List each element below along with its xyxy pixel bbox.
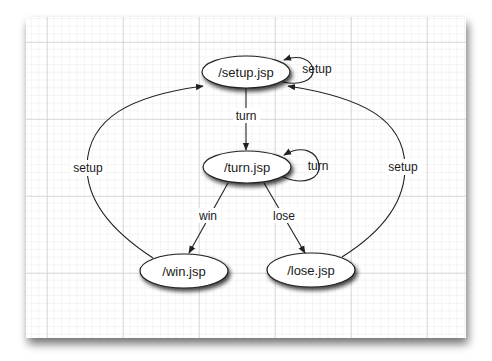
node-label-setup: /setup.jsp — [218, 65, 274, 80]
state-diagram: setup turn turn win lose setup setup /se… — [0, 0, 492, 361]
node-label-turn: /turn.jsp — [224, 160, 270, 175]
edge-label-turn-self: turn — [308, 159, 329, 173]
node-win: /win.jsp — [140, 254, 228, 288]
edge-label-setup-to-turn: turn — [236, 109, 257, 123]
edge-label-lose-to-setup: setup — [388, 160, 418, 174]
node-lose: /lose.jsp — [267, 253, 355, 287]
edge-label-win-to-setup: setup — [73, 161, 103, 175]
edge-label-turn-to-win: win — [198, 209, 217, 223]
node-label-lose: /lose.jsp — [287, 263, 335, 278]
node-turn: /turn.jsp — [203, 151, 291, 183]
node-label-win: /win.jsp — [162, 264, 205, 279]
node-setup: /setup.jsp — [202, 56, 290, 88]
edge-label-turn-to-lose: lose — [273, 209, 295, 223]
edge-label-setup-self: setup — [302, 62, 332, 76]
